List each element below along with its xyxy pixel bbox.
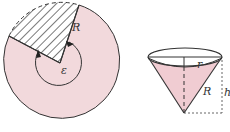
diagram-canvas: R ε r R h [0,0,230,132]
label-R-cone: R [202,85,211,98]
cone-figure: r R h [148,48,230,113]
disc-figure: R ε [4,2,120,118]
label-h-cone: h [224,86,230,99]
label-R-disc: R [71,21,80,34]
label-r-cone: r [197,58,203,71]
label-epsilon: ε [61,64,67,77]
